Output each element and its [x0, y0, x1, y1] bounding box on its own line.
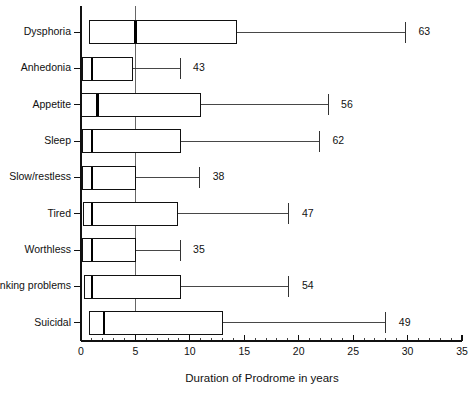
sample-count-label: 43 [193, 61, 205, 73]
x-tick-label: 10 [184, 345, 196, 357]
sample-count-label: 47 [302, 207, 314, 219]
boxplot-svg: 05101520253035 DysphoriaAnhedoniaAppetit… [0, 0, 474, 394]
box-rect [84, 275, 180, 298]
sample-count-label: 49 [399, 316, 411, 328]
box-rect [90, 21, 237, 44]
x-axis-title: Duration of Prodrome in years [185, 372, 339, 384]
figure-background [0, 0, 474, 394]
category-label: Worthless [25, 243, 72, 255]
sample-count-label: 38 [213, 170, 225, 182]
sample-count-label: 62 [332, 134, 344, 146]
boxplot-figure: 05101520253035 DysphoriaAnhedoniaAppetit… [0, 0, 474, 394]
sample-count-label: 56 [341, 98, 353, 110]
category-label: Dysphoria [24, 25, 71, 37]
x-tick-label: 0 [78, 345, 84, 357]
box-rect [82, 57, 132, 80]
x-tick-label: 35 [456, 345, 468, 357]
category-label: Slow/restless [9, 170, 71, 182]
category-label: Thinking problems [0, 279, 71, 291]
box-rect [82, 130, 180, 153]
category-label: Anhedonia [21, 61, 71, 73]
category-label: Tired [47, 207, 71, 219]
box-rect [83, 202, 178, 225]
sample-count-label: 54 [302, 279, 314, 291]
x-tick-label: 5 [133, 345, 139, 357]
category-label: Suicidal [34, 316, 71, 328]
category-label: Sleep [44, 134, 71, 146]
box-rect [82, 166, 135, 189]
sample-count-label: 35 [193, 243, 205, 255]
x-tick-label: 25 [347, 345, 359, 357]
box-rect [90, 311, 223, 334]
box-rect [81, 93, 201, 116]
box-rect [82, 239, 135, 262]
x-tick-label: 15 [238, 345, 250, 357]
x-tick-label: 30 [402, 345, 414, 357]
sample-count-label: 63 [418, 25, 430, 37]
x-tick-label: 20 [293, 345, 305, 357]
category-label: Appetite [32, 98, 71, 110]
